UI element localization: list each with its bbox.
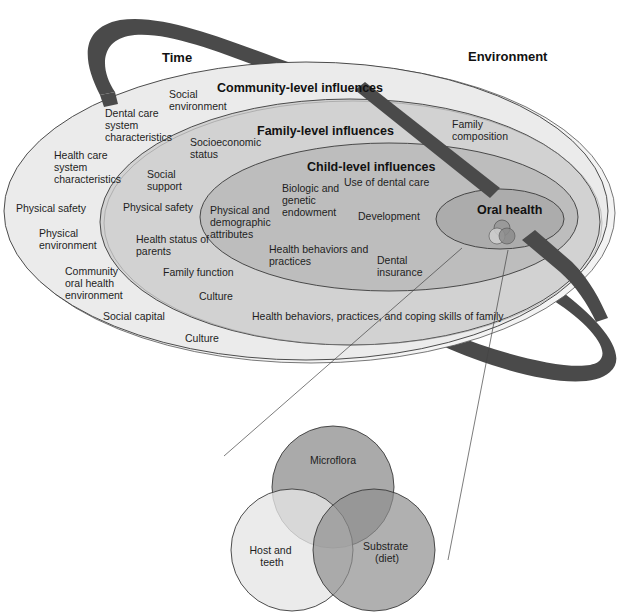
mini-venn-substrate (499, 228, 515, 244)
community-culture: Culture (185, 332, 219, 344)
environment-label: Environment (468, 49, 548, 64)
child-development: Development (358, 210, 420, 222)
oral-health-title: Oral health (477, 203, 542, 217)
child-use-of-dental-care: Use of dental care (344, 176, 429, 188)
child-level-title: Child-level influences (307, 160, 436, 174)
community-oral-health-environment: Community oral health environment (65, 265, 123, 301)
community-physical-safety: Physical safety (16, 202, 87, 214)
community-social-capital: Social capital (103, 310, 165, 322)
oral-health-influences-diagram: Time Environment Community-level influen… (0, 0, 628, 616)
family-family-function: Family function (163, 266, 234, 278)
family-level-title: Family-level influences (257, 124, 394, 138)
family-social-support: Social support (147, 168, 182, 192)
venn-label-microflora: Microflora (310, 454, 356, 466)
venn-diagram: Microflora Host and teeth Substrate (die… (231, 426, 435, 611)
family-health-behaviors-coping: Health behaviors, practices, and coping … (252, 310, 504, 322)
community-level-title: Community-level influences (217, 81, 383, 95)
family-physical-safety: Physical safety (123, 201, 194, 213)
time-label: Time (162, 50, 192, 65)
family-culture: Culture (199, 290, 233, 302)
